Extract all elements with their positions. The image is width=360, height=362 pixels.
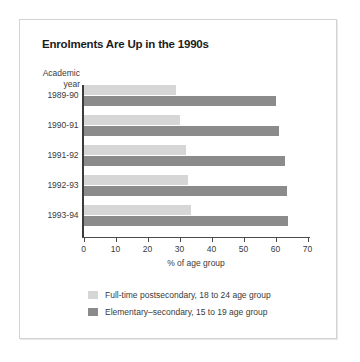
axis-tick-label: 60 bbox=[271, 244, 280, 254]
axis-tick bbox=[212, 237, 213, 242]
plot-area: 1989-901990-911991-921992-931993-94 bbox=[82, 85, 308, 237]
legend-label-postsecondary: Full-time postsecondary, 18 to 24 age gr… bbox=[105, 290, 271, 300]
legend-item-postsecondary: Full-time postsecondary, 18 to 24 age gr… bbox=[88, 286, 338, 303]
chart-page: Enrolments Are Up in the 1990s Academic … bbox=[0, 0, 360, 362]
legend-label-elementary-secondary: Elementary–secondary, 15 to 19 age group bbox=[105, 307, 267, 317]
axis-tick-label: 0 bbox=[81, 244, 86, 254]
category-label: 1989-90 bbox=[25, 90, 79, 100]
bar bbox=[84, 205, 191, 215]
axis-tick bbox=[180, 237, 181, 242]
bar bbox=[84, 96, 276, 106]
legend-item-elementary-secondary: Elementary–secondary, 15 to 19 age group bbox=[88, 303, 338, 320]
axis-tick bbox=[308, 237, 309, 242]
axis-tick bbox=[148, 237, 149, 242]
category-axis-title: Academic year bbox=[28, 68, 80, 90]
category-label: 1990-91 bbox=[25, 120, 79, 130]
value-axis-line: 010203040506070 bbox=[82, 237, 310, 238]
axis-tick bbox=[116, 237, 117, 242]
axis-tick bbox=[244, 237, 245, 242]
category-label: 1993-94 bbox=[25, 210, 79, 220]
bar bbox=[84, 175, 188, 185]
bar bbox=[84, 115, 180, 125]
axis-tick-label: 30 bbox=[175, 244, 184, 254]
legend-swatch-icon-postsecondary bbox=[88, 291, 98, 299]
bar bbox=[84, 145, 186, 155]
bar bbox=[84, 216, 289, 226]
axis-tick-label: 50 bbox=[239, 244, 248, 254]
legend-swatch-icon-elementary-secondary bbox=[88, 308, 98, 316]
chart-legend: Full-time postsecondary, 18 to 24 age gr… bbox=[88, 286, 338, 320]
bar bbox=[84, 85, 177, 95]
bar bbox=[84, 156, 286, 166]
category-label: 1992-93 bbox=[25, 180, 79, 190]
category-axis-title-line1: Academic bbox=[28, 68, 80, 79]
bar bbox=[84, 126, 279, 136]
axis-tick-label: 20 bbox=[143, 244, 152, 254]
value-axis-title: % of age group bbox=[82, 258, 310, 268]
bar bbox=[84, 186, 287, 196]
chart-title: Enrolments Are Up in the 1990s bbox=[42, 38, 209, 50]
chart-panel: Enrolments Are Up in the 1990s Academic … bbox=[19, 19, 337, 339]
axis-tick-label: 70 bbox=[303, 244, 312, 254]
category-label: 1991-92 bbox=[25, 150, 79, 160]
axis-tick bbox=[84, 237, 85, 242]
category-axis-title-line2: year bbox=[28, 79, 80, 90]
axis-tick-label: 10 bbox=[111, 244, 120, 254]
axis-tick-label: 40 bbox=[207, 244, 216, 254]
axis-tick bbox=[276, 237, 277, 242]
